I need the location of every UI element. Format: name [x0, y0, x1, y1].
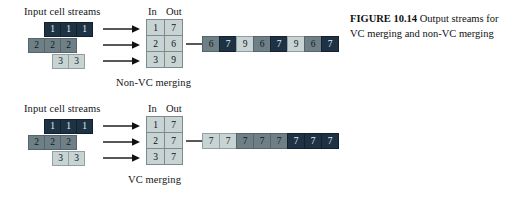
output-cell: 7 — [253, 133, 271, 149]
io-cell-in: 1 — [147, 117, 165, 133]
io-cell-out: 6 — [165, 36, 183, 52]
output-cell: 7 — [202, 133, 220, 149]
io-cell-in: 3 — [147, 52, 165, 68]
io-cell-in: 2 — [147, 36, 165, 52]
output-stream-non-vc: 6 7 9 6 7 9 6 7 — [202, 36, 338, 52]
io-cell-out: 7 — [165, 133, 183, 149]
panel-non-vc: Input cell streams In Out 1 1 1 2 2 2 3 … — [0, 0, 350, 98]
io-cell-in: 1 — [147, 20, 165, 36]
output-cell: 7 — [219, 133, 237, 149]
column-header-in-vc: In — [148, 103, 157, 114]
input-stream-row-2-vc: 2 2 2 — [28, 135, 76, 150]
stream-cell: 2 — [28, 38, 45, 53]
stream-cell: 2 — [60, 135, 77, 150]
figure-caption: FIGURE 10.14 Output streams for VC mergi… — [350, 12, 510, 41]
input-stream-row-2-non-vc: 2 2 2 — [28, 38, 76, 53]
output-cell: 7 — [321, 36, 339, 52]
arrow-to-table-2-vc — [103, 137, 141, 147]
arrow-to-table-1-vc — [103, 121, 141, 131]
table-row: 2 6 — [147, 36, 183, 52]
output-cell: 7 — [236, 133, 254, 149]
stream-cell: 2 — [44, 38, 61, 53]
io-mapping-table-vc: 1 7 2 7 3 7 — [146, 116, 183, 165]
io-mapping-table-non-vc: 1 7 2 6 3 9 — [146, 19, 183, 68]
io-cell-out: 7 — [165, 20, 183, 36]
stream-cell: 2 — [60, 38, 77, 53]
arrow-to-table-3-vc — [103, 153, 141, 163]
output-cell: 7 — [219, 36, 237, 52]
table-row: 3 9 — [147, 52, 183, 68]
stream-cell: 1 — [76, 22, 93, 37]
io-cell-in: 2 — [147, 133, 165, 149]
output-stream-vc: 7 7 7 7 7 7 7 7 — [202, 133, 338, 149]
output-cell: 9 — [236, 36, 254, 52]
table-row: 1 7 — [147, 20, 183, 36]
input-stream-row-3-vc: 3 3 — [52, 151, 84, 166]
input-stream-row-1-vc: 1 1 1 — [44, 119, 92, 134]
io-cell-in: 3 — [147, 149, 165, 165]
arrow-to-table-2-non-vc — [103, 40, 141, 50]
stream-cell: 1 — [76, 119, 93, 134]
figure-caption-number: FIGURE 10.14 — [350, 13, 417, 24]
stream-cell: 1 — [44, 119, 61, 134]
input-cell-streams-label-non-vc: Input cell streams — [24, 6, 100, 17]
table-row: 3 7 — [147, 149, 183, 165]
output-cell: 7 — [287, 133, 305, 149]
panel-vc: Input cell streams In Out 1 1 1 2 2 2 3 … — [0, 97, 350, 195]
stream-cell: 2 — [28, 135, 45, 150]
column-header-out-vc: Out — [166, 103, 182, 114]
input-stream-row-1-non-vc: 1 1 1 — [44, 22, 92, 37]
stream-cell: 3 — [68, 151, 85, 166]
io-cell-out: 7 — [165, 149, 183, 165]
arrow-to-table-1-non-vc — [103, 24, 141, 34]
stream-cell: 1 — [44, 22, 61, 37]
input-cell-streams-label-vc: Input cell streams — [24, 103, 100, 114]
panel-label-non-vc: Non-VC merging — [116, 77, 191, 88]
panel-label-vc: VC merging — [128, 174, 181, 185]
output-cell: 7 — [270, 133, 288, 149]
io-cell-out: 7 — [165, 117, 183, 133]
arrow-to-table-3-non-vc — [103, 56, 141, 66]
output-cell: 6 — [253, 36, 271, 52]
output-cell: 7 — [270, 36, 288, 52]
stream-cell: 3 — [68, 54, 85, 69]
column-header-in-non-vc: In — [148, 6, 157, 17]
stream-cell: 3 — [52, 54, 69, 69]
figure-canvas: Input cell streams In Out 1 1 1 2 2 2 3 … — [0, 0, 520, 197]
stream-cell: 3 — [52, 151, 69, 166]
output-cell: 7 — [304, 133, 322, 149]
output-cell: 9 — [287, 36, 305, 52]
table-row: 2 7 — [147, 133, 183, 149]
stream-cell: 1 — [60, 119, 77, 134]
stream-cell: 2 — [44, 135, 61, 150]
table-row: 1 7 — [147, 117, 183, 133]
column-header-out-non-vc: Out — [166, 6, 182, 17]
input-stream-row-3-non-vc: 3 3 — [52, 54, 84, 69]
output-cell: 7 — [321, 133, 339, 149]
io-cell-out: 9 — [165, 52, 183, 68]
output-cell: 6 — [304, 36, 322, 52]
output-cell: 6 — [202, 36, 220, 52]
stream-cell: 1 — [60, 22, 77, 37]
